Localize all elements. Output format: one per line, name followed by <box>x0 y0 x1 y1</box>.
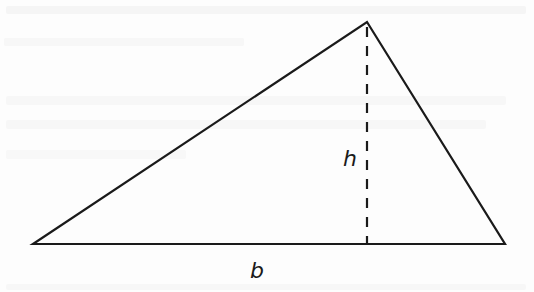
height-label: h <box>343 148 357 170</box>
base-label: b <box>250 260 264 282</box>
triangle-figure <box>0 0 534 292</box>
triangle-outline <box>33 22 505 244</box>
